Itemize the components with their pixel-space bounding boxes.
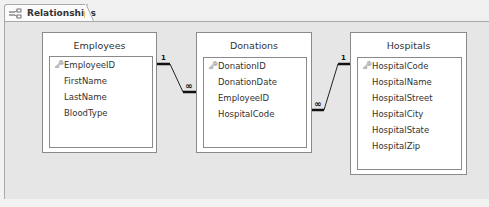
many-side-label: ∞ <box>314 99 322 109</box>
one-side-label: 1 <box>161 54 166 62</box>
many-side-label: ∞ <box>185 81 193 91</box>
relationship-lines <box>0 0 489 207</box>
one-side-label: 1 <box>341 54 346 62</box>
